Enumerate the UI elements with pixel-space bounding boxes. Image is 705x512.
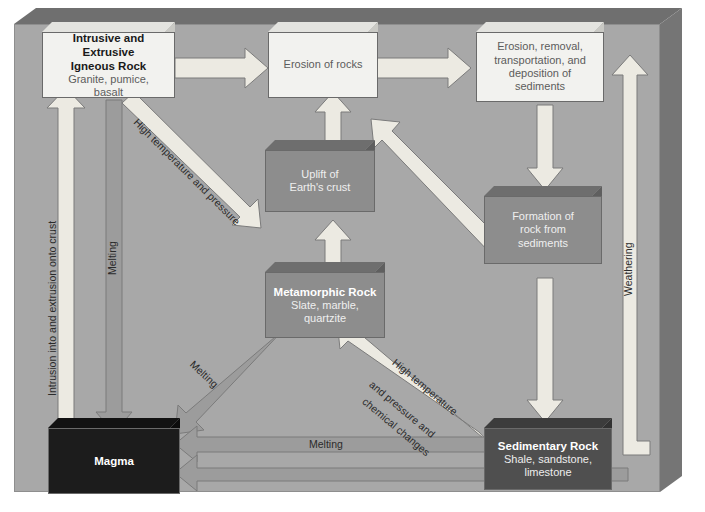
node-formation-of-rock-from-sediments[interactable]: Formation of rock from sediments: [484, 186, 602, 264]
node-face: Formation of rock from sediments: [484, 196, 602, 264]
node-subtitle-line1: Granite, pumice,: [68, 73, 149, 86]
node-igneous-rock[interactable]: Intrusive and Extrusive Igneous Rock Gra…: [42, 22, 175, 98]
node-erosion-of-rocks[interactable]: Erosion of rocks: [268, 22, 378, 98]
rock-cycle-diagram: Intrusion into and extrusion onto crust …: [0, 0, 705, 512]
node-title-line2: Igneous Rock: [71, 59, 146, 73]
node-top-face: [268, 22, 378, 32]
node-top-face: [48, 418, 180, 428]
node-face: Uplift of Earth's crust: [265, 150, 375, 212]
node-title-line1: Uplift of: [301, 168, 338, 181]
node-title-line1: Erosion, removal,: [497, 40, 583, 53]
node-face: Erosion of rocks: [268, 32, 378, 98]
node-title-line3: sediments: [518, 237, 568, 250]
node-face: Metamorphic Rock Slate, marble, quartzit…: [265, 272, 385, 338]
node-subtitle-line1: Slate, marble,: [291, 299, 359, 312]
node-face: Sedimentary Rock Shale, sandstone, limes…: [484, 428, 612, 490]
arrow-label-melting-bottom: Melting: [309, 438, 343, 450]
node-sedimentary-rock[interactable]: Sedimentary Rock Shale, sandstone, limes…: [484, 418, 612, 490]
arrow-label-weathering: Weathering: [622, 242, 634, 296]
node-title-line1: Formation of: [512, 210, 574, 223]
node-metamorphic-rock[interactable]: Metamorphic Rock Slate, marble, quartzit…: [265, 262, 385, 338]
arrow-label-intrusion: Intrusion into and extrusion onto crust: [46, 221, 58, 396]
node-title-line3: deposition of: [509, 67, 571, 80]
node-uplift-of-earths-crust[interactable]: Uplift of Earth's crust: [265, 140, 375, 212]
node-top-face: [265, 140, 375, 150]
slab-right-face: [660, 8, 682, 492]
node-face: Intrusive and Extrusive Igneous Rock Gra…: [42, 32, 175, 98]
node-subtitle-line2: quartzite: [304, 312, 346, 325]
node-title-line2: rock from: [520, 223, 566, 236]
node-top-face: [476, 22, 604, 32]
node-title: Magma: [94, 454, 134, 468]
node-title: Metamorphic Rock: [274, 285, 377, 299]
node-face: Magma: [48, 428, 180, 494]
node-title-line1: Intrusive and Extrusive: [47, 31, 170, 59]
node-title-line4: sediments: [515, 80, 565, 93]
node-top-face: [484, 418, 612, 428]
node-title-line2: transportation, and: [494, 54, 586, 67]
node-subtitle-line1: Shale, sandstone,: [504, 453, 592, 466]
node-erosion-removal-deposition[interactable]: Erosion, removal, transportation, and de…: [476, 22, 604, 102]
node-top-face: [265, 262, 385, 272]
node-top-face: [484, 186, 602, 196]
node-subtitle-line2: basalt: [94, 86, 123, 99]
arrow-label-melting-left: Melting: [106, 241, 118, 275]
node-face: Erosion, removal, transportation, and de…: [476, 32, 604, 102]
node-title-line1: Erosion of rocks: [284, 58, 363, 71]
node-subtitle-line2: limestone: [524, 466, 571, 479]
node-title: Sedimentary Rock: [498, 439, 598, 453]
node-magma[interactable]: Magma: [48, 418, 180, 494]
node-title-line2: Earth's crust: [290, 181, 351, 194]
